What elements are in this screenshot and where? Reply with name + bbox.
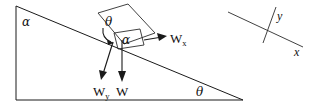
axis-x-label: x <box>293 45 300 59</box>
block-inner-angle-label: α <box>122 33 130 47</box>
vector-wx <box>144 33 167 41</box>
axis-y-line <box>263 7 276 43</box>
axis-y-label: y <box>276 9 283 23</box>
physics-diagram-figure: α θ α θ Wx Wy <box>0 0 322 112</box>
incline-slope-edge <box>16 6 243 100</box>
vector-w-label: W <box>116 84 129 99</box>
vector-wy <box>99 42 113 80</box>
axis-x-line <box>228 12 303 47</box>
diagram-canvas: α θ α θ Wx Wy <box>0 0 322 112</box>
incline-apex-angle-label: α <box>22 15 30 29</box>
tilted-coordinate-axes <box>228 7 303 47</box>
incline-base-angle-label: θ <box>196 85 204 99</box>
vector-wy-label: Wy <box>93 84 110 101</box>
vector-wx-label: Wx <box>170 31 187 48</box>
inclined-plane-triangle <box>16 6 243 100</box>
block-top-angle-label: θ <box>105 15 113 29</box>
